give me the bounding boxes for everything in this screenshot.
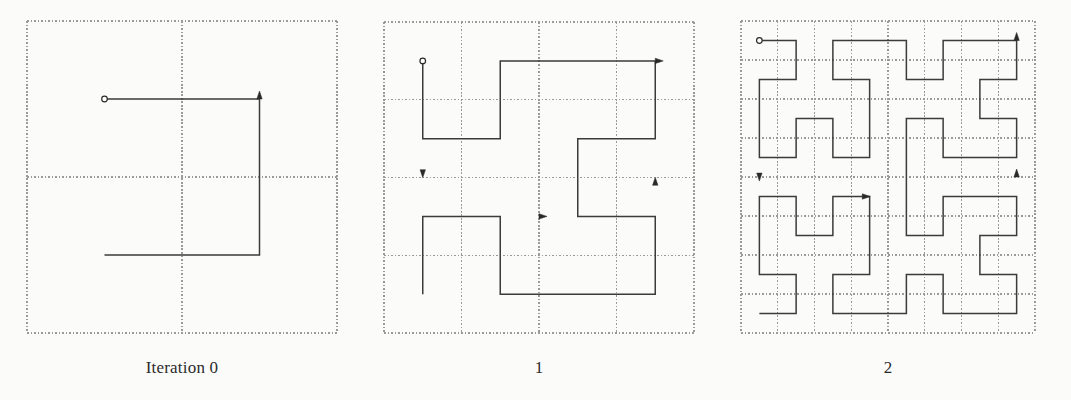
start-point-circle-icon [757, 38, 763, 44]
panel-iteration-1 [384, 22, 694, 333]
direction-arrowhead-icon [1014, 169, 1019, 177]
end-arrowhead-icon [257, 91, 262, 99]
end-arrowhead-icon [1014, 33, 1019, 41]
direction-arrowhead-icon [757, 173, 762, 181]
figure-canvas [0, 0, 1071, 400]
end-arrowhead-icon [655, 58, 663, 63]
start-point-circle-icon [420, 58, 426, 64]
grid-iteration-1 [384, 22, 694, 333]
direction-arrowhead-icon [420, 170, 425, 178]
panel-iteration-0 [27, 21, 337, 333]
grid-iteration-0 [27, 21, 337, 333]
direction-arrowhead-icon [539, 214, 547, 219]
caption-iteration-2: 2 [808, 358, 968, 378]
grid-iteration-2 [741, 21, 1035, 333]
caption-iteration-1: 1 [459, 358, 619, 378]
direction-arrowhead-icon [653, 177, 658, 185]
caption-iteration-0: Iteration 0 [0, 358, 364, 378]
hilbert-curve-figure: Iteration 0 1 2 [0, 0, 1071, 400]
start-point-circle-icon [102, 96, 108, 102]
panel-iteration-2 [741, 21, 1035, 333]
